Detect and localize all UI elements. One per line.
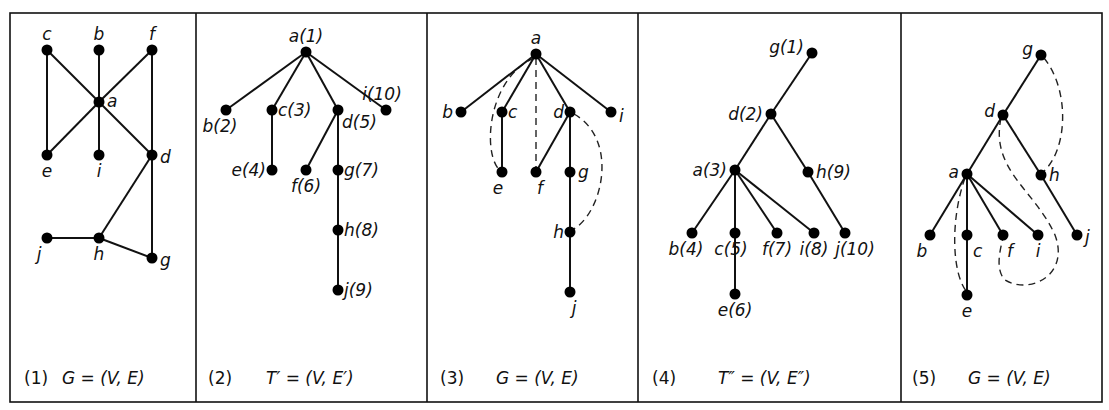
node-label-g: g (1022, 39, 1033, 59)
node-label-a: a (107, 91, 117, 111)
node-e (962, 290, 973, 301)
node-label-c: c (973, 241, 983, 261)
node-c (497, 107, 508, 118)
node-label-h: h(9) (816, 162, 851, 182)
node-b (221, 105, 232, 116)
node-f (301, 165, 312, 176)
edge-d-a (967, 115, 1003, 174)
node-a (94, 97, 105, 108)
node-label-j: j (1083, 227, 1090, 247)
node-a (531, 49, 542, 60)
edge-a-e (47, 102, 99, 155)
caption-text-3: G = (V, E) (496, 368, 579, 388)
node-d (147, 150, 158, 161)
node-label-d: d(5) (342, 112, 377, 132)
node-label-j: j (570, 298, 577, 318)
node-i (809, 228, 820, 239)
edge-a-f (735, 170, 777, 233)
node-i (381, 105, 392, 116)
node-label-a: a (949, 162, 959, 182)
panel-3: abcdiefghj (442, 28, 624, 318)
node-label-e: e(6) (718, 300, 753, 320)
node-h (565, 227, 576, 238)
node-label-g: g (160, 250, 171, 270)
node-label-i: i(10) (362, 84, 402, 104)
node-label-c: c (42, 24, 52, 44)
edge-a-b (930, 174, 967, 235)
node-e (267, 165, 278, 176)
node-label-f: f (149, 24, 158, 44)
node-j (1072, 230, 1083, 241)
node-a (962, 169, 973, 180)
node-e (497, 167, 508, 178)
caption-number-5: (5) (912, 368, 936, 388)
panel-3-back-edges (490, 58, 602, 230)
node-i (606, 107, 617, 118)
node-g (565, 167, 576, 178)
node-e (730, 289, 741, 300)
node-b (925, 230, 936, 241)
caption-number-3: (3) (440, 368, 464, 388)
node-label-a: a (531, 28, 541, 48)
node-label-i: i(8) (800, 239, 829, 259)
node-label-e: e (962, 301, 972, 321)
node-label-a: a(3) (693, 160, 728, 180)
node-label-j: j (35, 244, 42, 264)
node-label-b: b (442, 102, 453, 122)
node-label-g: g(7) (344, 160, 379, 180)
edge-a-i (536, 54, 611, 112)
caption-text-5: G = (V, E) (968, 368, 1051, 388)
edge-c-a (47, 50, 99, 102)
caption-text-2: T′ = (V, E′) (266, 368, 354, 388)
node-label-f: f (537, 178, 546, 198)
node-c (730, 228, 741, 239)
figure-canvas: cbfaeidjhga(1)b(2)c(3)d(5)i(10)e(4)f(6)g… (0, 0, 1109, 410)
node-g (147, 253, 158, 264)
edge-a-i (735, 170, 814, 233)
node-a (301, 47, 312, 58)
panel-frame (10, 13, 1102, 402)
node-label-g: g(1) (769, 37, 804, 57)
node-i (1033, 230, 1044, 241)
node-d (998, 110, 1009, 121)
node-label-b: b(4) (669, 239, 704, 259)
captions: (1) G = (V, E) (2) T′ = (V, E′) (3) G = … (24, 368, 1051, 388)
node-label-i: i (97, 161, 102, 181)
node-label-j: j(10) (833, 239, 875, 259)
edge-a-i (967, 174, 1038, 235)
node-label-d: d (160, 147, 171, 167)
graph-figure: cbfaeidjhga(1)b(2)c(3)d(5)i(10)e(4)f(6)g… (0, 0, 1109, 410)
node-label-f: f (1007, 241, 1016, 261)
node-j (840, 228, 851, 239)
node-label-d: d (553, 102, 564, 122)
node-label-d: d(2) (728, 104, 763, 124)
node-label-b: b(2) (203, 116, 238, 136)
node-label-i: i (1036, 241, 1041, 261)
back-edge-g-h (1043, 58, 1063, 172)
node-f (998, 230, 1009, 241)
node-label-h: h(8) (344, 220, 379, 240)
node-label-c: c(5) (714, 239, 747, 259)
node-b (94, 45, 105, 56)
node-d (766, 109, 777, 120)
node-f (772, 228, 783, 239)
node-label-c: c(3) (278, 100, 311, 120)
node-c (267, 105, 278, 116)
node-label-b: b (94, 24, 105, 44)
node-e (42, 150, 53, 161)
node-d (565, 107, 576, 118)
node-g (1036, 50, 1047, 61)
node-label-c: c (508, 102, 518, 122)
node-label-i: i (619, 106, 624, 126)
node-h (94, 233, 105, 244)
node-b (687, 228, 698, 239)
caption-number-4: (4) (652, 368, 676, 388)
node-g (333, 165, 344, 176)
node-label-h: h (553, 222, 564, 242)
node-g (807, 48, 818, 59)
edge-a-b (461, 54, 536, 112)
node-label-h: h (1049, 165, 1060, 185)
node-f (531, 167, 542, 178)
node-i (94, 150, 105, 161)
panels-layer: cbfaeidjhga(1)b(2)c(3)d(5)i(10)e(4)f(6)g… (35, 24, 1090, 321)
